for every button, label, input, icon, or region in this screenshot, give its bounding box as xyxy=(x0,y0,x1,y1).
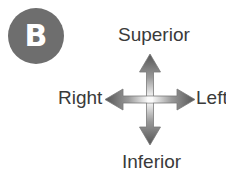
direction-label-left: Left xyxy=(196,88,226,108)
cross-center-joint xyxy=(147,97,153,103)
orientation-cross-arrow xyxy=(104,53,196,146)
direction-label-inferior: Inferior xyxy=(122,152,181,172)
panel-label-badge: B xyxy=(8,8,64,64)
panel-label-letter: B xyxy=(25,21,48,51)
cross-arrow-svg xyxy=(104,53,196,146)
direction-label-right: Right xyxy=(58,88,102,108)
direction-label-superior: Superior xyxy=(118,25,190,45)
figure-panel: B xyxy=(0,0,226,176)
